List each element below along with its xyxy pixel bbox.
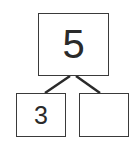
part-box-left: 3 [16,93,66,137]
part-value-left: 3 [34,101,48,130]
part-box-right[interactable] [79,93,129,137]
whole-box: 5 [38,13,109,76]
whole-value: 5 [62,22,84,67]
